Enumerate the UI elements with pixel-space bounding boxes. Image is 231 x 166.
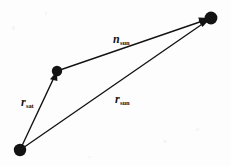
satellite-node xyxy=(52,66,62,76)
vector-diagram-figure: rsat rsun nsun xyxy=(0,0,231,166)
vector-label-n-sun-subscript: sun xyxy=(120,39,129,46)
vector-n-sun xyxy=(57,17,211,71)
sun-node xyxy=(205,12,218,25)
diagram-canvas xyxy=(0,0,231,166)
vector-r-sat-shaft xyxy=(20,77,54,150)
vector-label-r-sun-symbol: r xyxy=(115,92,120,106)
vector-label-r-sun-subscript: sun xyxy=(120,99,129,106)
vector-label-n-sun: nsun xyxy=(113,33,129,45)
origin-node xyxy=(14,144,26,156)
vector-n-sun-shaft xyxy=(57,20,206,71)
vector-label-r-sat-subscript: sat xyxy=(26,102,34,109)
vector-r-sat xyxy=(20,71,57,150)
vector-label-r-sun: rsun xyxy=(115,93,129,105)
vector-label-r-sat-symbol: r xyxy=(21,95,26,109)
vector-label-n-sun-symbol: n xyxy=(113,32,120,46)
vector-label-r-sat: rsat xyxy=(21,96,33,108)
